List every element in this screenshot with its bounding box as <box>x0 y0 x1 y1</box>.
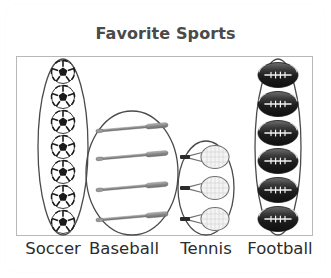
page-title: Favorite Sports <box>6 24 325 43</box>
axis-label-soccer: Soccer <box>16 237 90 261</box>
category-axis: Soccer Baseball Tennis Football <box>16 237 319 267</box>
column-tennis[interactable] <box>170 141 242 235</box>
football-column-graphic <box>245 59 311 235</box>
tennis-column-graphic <box>170 141 242 235</box>
chart-card: Favorite Sports <box>6 4 325 272</box>
column-football[interactable] <box>245 59 311 235</box>
axis-label-football: Football <box>238 237 322 261</box>
axis-label-baseball: Baseball <box>82 237 166 261</box>
plot-area <box>16 56 313 236</box>
axis-label-tennis: Tennis <box>171 237 241 261</box>
